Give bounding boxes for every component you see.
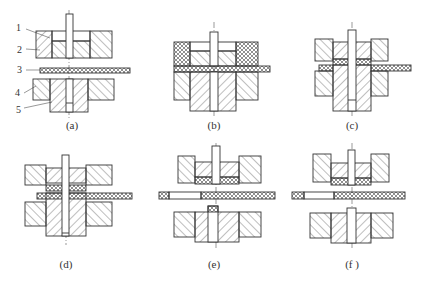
caption-b: (b) xyxy=(208,119,221,131)
process-diagram xyxy=(0,0,422,286)
caption-c: (c) xyxy=(346,119,358,131)
caption-a: (a) xyxy=(66,119,78,131)
diagram-canvas: 1 2 3 4 5 (a) (b) (c) (d) (e) (f ) xyxy=(0,0,422,286)
part-label-3: 3 xyxy=(17,64,22,75)
panel-f xyxy=(292,143,405,248)
part-label-2: 2 xyxy=(17,44,22,55)
caption-e: (e) xyxy=(208,258,220,270)
panel-a xyxy=(33,10,130,118)
panel-c xyxy=(315,22,411,116)
part-label-1: 1 xyxy=(16,22,21,33)
part-label-5: 5 xyxy=(16,104,21,115)
panel-e xyxy=(159,143,275,248)
panel-b xyxy=(174,22,270,116)
panel-d xyxy=(25,155,132,245)
part-label-4: 4 xyxy=(15,87,20,98)
caption-d: (d) xyxy=(60,258,73,270)
caption-f: (f ) xyxy=(345,258,359,270)
